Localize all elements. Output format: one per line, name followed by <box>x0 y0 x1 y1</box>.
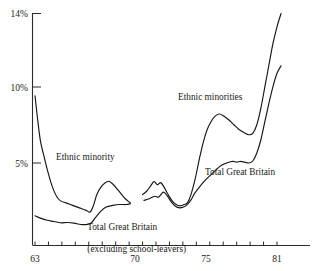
annotation-total-great-britain-excluding-school-leavers: Total Great Britain (excluding school-le… <box>78 211 186 266</box>
annotation-total-great-britain: Total Great Britain <box>205 167 275 178</box>
annotation-line-2: (excluding school-leavers) <box>87 244 186 254</box>
x-tick-label-81: 81 <box>272 254 282 264</box>
series-line-total-great-britain-right <box>144 66 281 208</box>
x-tick-label-75: 75 <box>201 254 211 264</box>
series-lines <box>35 14 281 225</box>
unemployment-rate-line-chart: 14% 10% 5% 63 70 75 81 Ethnic minority E… <box>0 0 316 271</box>
y-axis <box>33 13 42 245</box>
annotation-ethnic-minority: Ethnic minority <box>56 152 115 163</box>
y-tick-label-10: 10% <box>11 83 29 93</box>
annotation-line-1: Total Great Britain <box>87 222 157 232</box>
x-tick-label-63: 63 <box>30 254 40 264</box>
y-tick-label-14: 14% <box>11 9 29 19</box>
y-tick-label-5: 5% <box>15 159 28 169</box>
annotation-ethnic-minorities: Ethnic minorities <box>178 92 242 103</box>
